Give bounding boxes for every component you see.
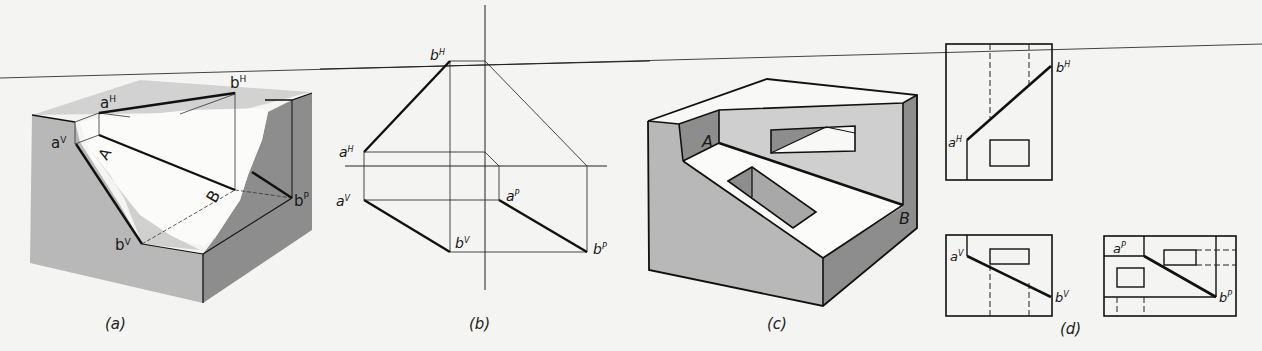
label-bH: bH [430,47,445,63]
side-view-opening-2 [1117,268,1144,287]
construct-aH-to-aP [364,152,499,200]
label-aH: aH [339,144,354,160]
label-bV: bV [455,235,470,251]
label-bH: bH [1056,60,1070,75]
line-aV-bV [364,200,450,252]
front-view: aV bV [946,235,1069,316]
construct-bH-to-bP [450,61,587,252]
caption-a: (a) [105,315,126,333]
line-aP-bP [1144,256,1216,297]
label-aH: aH [948,135,962,150]
label-bV: bV [1055,290,1069,305]
caption-d: (d) [1060,320,1081,338]
line-aV-bV [967,256,1051,297]
label-aP: aP [1113,241,1126,256]
caption-b: (b) [469,315,490,333]
label-B: B [899,209,910,228]
panel-a: aH bH aV bV bP A B (a) [30,74,312,333]
label-A: A [701,132,713,151]
caption-c: (c) [767,315,787,333]
panel-d: aH bH aV bV aP [946,44,1236,338]
line-aH-bH [967,66,1051,140]
line-aP-bP [499,200,587,252]
line-aH-bH [364,61,450,152]
label-bP: bP [1219,290,1232,305]
label-aP: aP [506,188,520,204]
front-view-opening [990,249,1029,264]
label-aV: aV [336,193,351,209]
side-view: aP bP [1104,236,1236,316]
panel-b: bH aH aV aP bV bP (b) [320,5,650,333]
label-aV: aV [950,249,964,264]
top-view-opening [990,140,1029,166]
figure-canvas: aH bH aV bV bP A B (a) bH aH aV aP bV bP… [0,0,1262,351]
box-top-face [32,80,310,115]
panel-c: A B (c) [648,79,918,333]
side-view-opening-1 [1164,250,1196,265]
label-bP: bP [593,241,607,257]
front-view-outline [946,235,1052,316]
top-view: aH bH [946,44,1070,180]
